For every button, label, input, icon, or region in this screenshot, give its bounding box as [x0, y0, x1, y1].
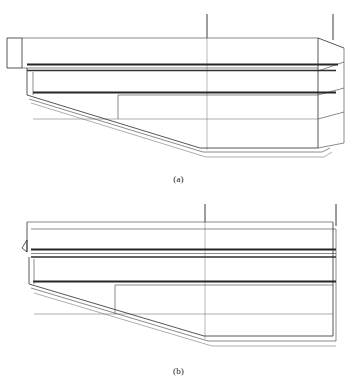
- left-tab-a: [7, 38, 22, 68]
- figure-panel-b: (b): [0, 196, 357, 391]
- forefoot-diagonal-keel-b: [34, 293, 212, 346]
- figure-caption-b: (b): [0, 366, 357, 377]
- forefoot-diagonal-upper-a: [27, 95, 200, 148]
- left-notch-b: [22, 240, 27, 252]
- keel-end-bevel2-a: [324, 152, 332, 157]
- figure-panel-a: (a): [0, 0, 357, 196]
- figure-sheet: (a): [0, 0, 357, 391]
- forefoot-diagonal-lower-a: [29, 99, 203, 152]
- keel-end-bevel-a: [322, 148, 330, 152]
- forefoot-diagonal-upper-b: [29, 284, 204, 336]
- forefoot-diagonal-lower-b: [31, 288, 208, 341]
- forefoot-diagonal-keel-a: [31, 103, 206, 157]
- hull-profile-svg-b: [0, 196, 357, 364]
- figure-caption-a: (a): [0, 174, 357, 185]
- perspective-edge-top-a: [318, 38, 344, 48]
- perspective-edge-bottom-a: [318, 143, 344, 148]
- hull-profile-drawing-a: [0, 0, 357, 172]
- perspective-edge-mid2-a: [318, 88, 344, 95]
- hull-profile-svg-a: [0, 0, 357, 172]
- perspective-edge-mid1-a: [318, 62, 344, 71]
- hull-profile-drawing-b: [0, 196, 357, 364]
- perspective-edge-mid3-a: [318, 112, 344, 119]
